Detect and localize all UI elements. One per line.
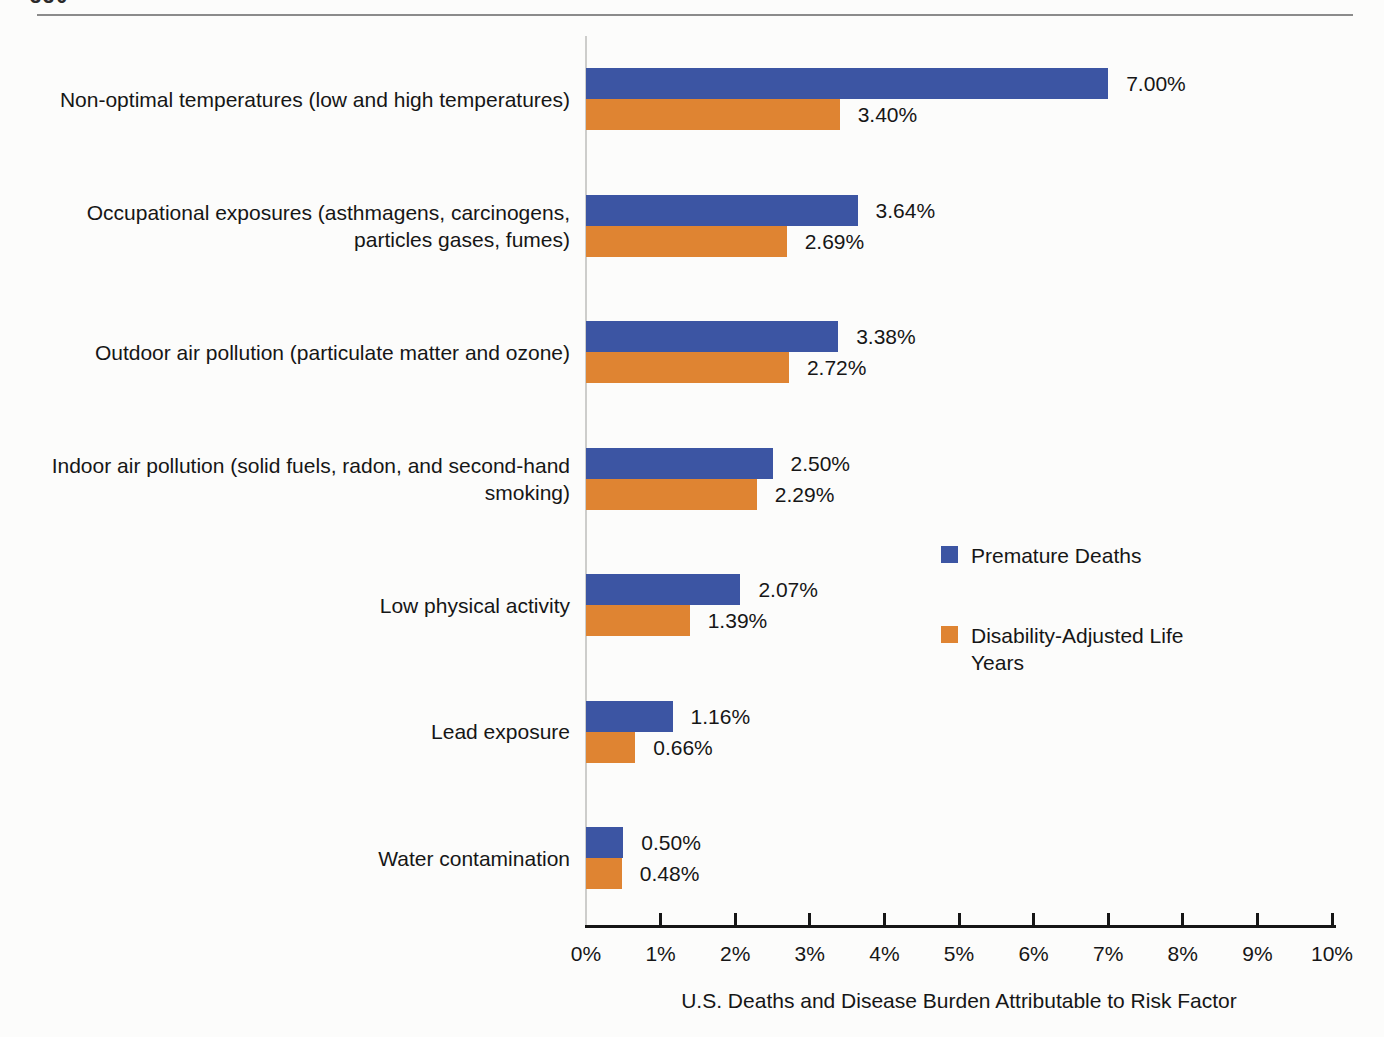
x-axis-tick (808, 913, 811, 925)
x-axis-tick-label: 10% (1295, 942, 1369, 966)
bar-premature-deaths (586, 448, 773, 479)
legend-label-line: Years (971, 649, 1183, 676)
x-axis-tick (958, 913, 961, 925)
x-axis-tick (1256, 913, 1259, 925)
bar-premature-deaths (586, 574, 740, 605)
value-label: 3.64% (876, 195, 936, 226)
x-axis-tick (734, 913, 737, 925)
x-axis-title: U.S. Deaths and Disease Burden Attributa… (586, 989, 1332, 1013)
category-label: Lead exposure (28, 691, 570, 773)
bar-disability-adjusted-life-years (586, 732, 635, 763)
bar-premature-deaths (586, 68, 1108, 99)
category-label: Occupational exposures (asthmagens, carc… (28, 185, 570, 267)
category-label-line: particles gases, fumes) (354, 226, 570, 253)
category-label: Water contamination (28, 817, 570, 899)
category-label-line: Low physical activity (380, 592, 570, 619)
category-label-line: Lead exposure (431, 718, 570, 745)
category-label: Low physical activity (28, 564, 570, 646)
value-label: 0.48% (640, 858, 700, 889)
x-axis-tick-label: 3% (773, 942, 847, 966)
x-axis-tick (883, 913, 886, 925)
bar-disability-adjusted-life-years (586, 479, 757, 510)
category-label-line: Outdoor air pollution (particulate matte… (95, 339, 570, 366)
legend-label-line: Disability-Adjusted Life (971, 622, 1183, 649)
category-label-line: smoking) (485, 479, 570, 506)
x-axis-tick-label: 0% (549, 942, 623, 966)
legend-label: Disability-Adjusted LifeYears (971, 622, 1183, 676)
scanned-page: { "page": { "page_number_partial": "330"… (0, 0, 1384, 1037)
legend-item-disability-adjusted-life-years: Disability-Adjusted LifeYears (941, 622, 1183, 676)
legend-label: Premature Deaths (971, 542, 1141, 569)
bar-disability-adjusted-life-years (586, 858, 622, 889)
legend-swatch (941, 626, 958, 643)
value-label: 3.40% (858, 99, 918, 130)
legend-label-line: Premature Deaths (971, 542, 1141, 569)
x-axis-tick (1032, 913, 1035, 925)
x-axis-tick-label: 5% (922, 942, 996, 966)
bar-disability-adjusted-life-years (586, 352, 789, 383)
value-label: 2.50% (791, 448, 851, 479)
x-axis-tick-label: 6% (997, 942, 1071, 966)
bar-disability-adjusted-life-years (586, 226, 787, 257)
bar-disability-adjusted-life-years (586, 99, 840, 130)
x-axis-tick (1331, 913, 1334, 925)
value-label: 2.72% (807, 352, 867, 383)
value-label: 0.50% (641, 827, 701, 858)
x-axis-tick-label: 2% (698, 942, 772, 966)
value-label: 0.66% (653, 732, 713, 763)
x-axis-tick (1107, 913, 1110, 925)
category-label: Outdoor air pollution (particulate matte… (28, 311, 570, 393)
value-label: 2.07% (758, 574, 818, 605)
bar-premature-deaths (586, 321, 838, 352)
bar-chart: U.S. Deaths and Disease Burden Attributa… (0, 0, 1384, 1037)
x-axis-tick-label: 8% (1146, 942, 1220, 966)
bar-disability-adjusted-life-years (586, 605, 690, 636)
x-axis-line (585, 925, 1336, 928)
category-label: Non-optimal temperatures (low and high t… (28, 58, 570, 140)
category-label-line: Indoor air pollution (solid fuels, radon… (52, 452, 570, 479)
value-label: 3.38% (856, 321, 916, 352)
category-label-line: Occupational exposures (asthmagens, carc… (87, 199, 570, 226)
value-label: 1.16% (691, 701, 751, 732)
x-axis-tick (659, 913, 662, 925)
legend-swatch (941, 546, 958, 563)
category-label-line: Water contamination (378, 845, 570, 872)
value-label: 2.69% (805, 226, 865, 257)
bar-premature-deaths (586, 827, 623, 858)
x-axis-tick (1181, 913, 1184, 925)
bar-premature-deaths (586, 701, 673, 732)
legend-item-premature-deaths: Premature Deaths (941, 542, 1141, 569)
category-label: Indoor air pollution (solid fuels, radon… (28, 438, 570, 520)
x-axis-tick-label: 4% (847, 942, 921, 966)
value-label: 2.29% (775, 479, 835, 510)
x-axis-tick-label: 1% (624, 942, 698, 966)
value-label: 7.00% (1126, 68, 1186, 99)
value-label: 1.39% (708, 605, 768, 636)
x-axis-tick-label: 9% (1220, 942, 1294, 966)
x-axis-tick-label: 7% (1071, 942, 1145, 966)
bar-premature-deaths (586, 195, 858, 226)
category-label-line: Non-optimal temperatures (low and high t… (60, 86, 570, 113)
